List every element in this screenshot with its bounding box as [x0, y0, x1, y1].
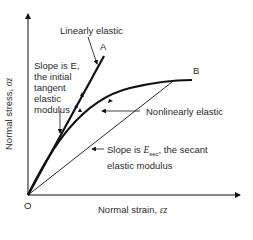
tangent-modulus-annotation: Slope is E, the initial tangent elastic …: [34, 60, 79, 115]
secant-modulus-annotation: Slope is Esec, the secant elastic modulu…: [107, 144, 208, 171]
y-axis-label: Normal stress, σz: [3, 78, 14, 150]
curve-load-arrow-icon: [108, 99, 113, 103]
nonlinear-elastic-label: Nonlinearly elastic: [146, 106, 223, 117]
point-a-label: A: [100, 41, 106, 52]
linear-leader: [88, 37, 97, 64]
linear-elastic-label: Linearly elastic: [60, 25, 123, 36]
origin-label: O: [24, 200, 31, 211]
x-axis-label: Normal strain, εz: [98, 204, 167, 216]
point-b-label: B: [193, 65, 199, 76]
